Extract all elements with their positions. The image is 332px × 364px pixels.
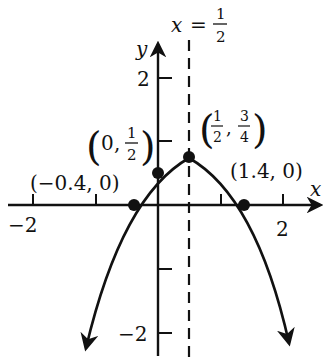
label-y-intercept: ( 0 , 1 2 ) xyxy=(86,123,156,169)
svg-text:,: , xyxy=(114,131,120,155)
label-vertex: ( 1 2 , 3 4 ) xyxy=(199,106,268,152)
svg-text:(: ( xyxy=(86,123,102,169)
parabola-graph: y x −2 2 2 −2 x = 1 2 ( 0 , 1 2 ) ( 1 2 … xyxy=(0,0,332,364)
svg-text:1: 1 xyxy=(213,108,222,124)
svg-text:3: 3 xyxy=(240,108,249,124)
svg-text:=: = xyxy=(190,13,207,37)
svg-text:2: 2 xyxy=(213,129,222,145)
x-tick-label-neg2: −2 xyxy=(8,213,37,237)
label-left-root: (−0.4, 0) xyxy=(30,171,120,195)
svg-text:4: 4 xyxy=(240,129,249,145)
y-tick-label-neg2: −2 xyxy=(118,322,147,346)
svg-text:0: 0 xyxy=(101,131,114,155)
point-right-root xyxy=(238,199,250,211)
point-vertex xyxy=(183,151,195,163)
y-axis-label: y xyxy=(135,37,148,61)
x-axis-label: x xyxy=(310,177,321,201)
y-tick-label-pos2: 2 xyxy=(137,67,150,91)
svg-text:): ) xyxy=(252,106,268,152)
label-right-root: (1.4, 0) xyxy=(230,159,303,183)
svg-text:1: 1 xyxy=(216,5,226,23)
svg-text:2: 2 xyxy=(127,146,137,164)
svg-text:): ) xyxy=(140,123,156,169)
point-left-root xyxy=(128,199,140,211)
svg-text:1: 1 xyxy=(127,124,137,142)
svg-text:2: 2 xyxy=(216,28,226,46)
svg-text:,: , xyxy=(226,117,232,138)
asymptote-label: x = 1 2 xyxy=(171,5,227,46)
x-tick-label-pos2: 2 xyxy=(276,217,289,241)
svg-text:x: x xyxy=(171,13,182,37)
